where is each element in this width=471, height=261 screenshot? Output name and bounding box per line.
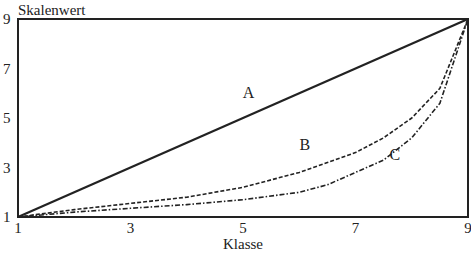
y-tick-label: 7 bbox=[3, 61, 11, 77]
y-tick-label: 1 bbox=[3, 209, 11, 225]
y-tick-label: 5 bbox=[3, 110, 11, 126]
y-axis-ticks: 13579 bbox=[3, 11, 11, 225]
curve-label-c: C bbox=[390, 146, 401, 163]
y-tick-label: 3 bbox=[3, 160, 11, 176]
curve-label-a: A bbox=[243, 84, 255, 101]
series-a-line bbox=[18, 19, 468, 217]
line-chart: Skalenwert Klasse 13579 13579 ABC bbox=[0, 0, 471, 261]
x-tick-label: 1 bbox=[14, 220, 22, 236]
y-axis-title: Skalenwert bbox=[18, 2, 86, 18]
x-tick-label: 9 bbox=[464, 220, 471, 236]
x-tick-label: 7 bbox=[352, 220, 360, 236]
x-tick-label: 3 bbox=[127, 220, 135, 236]
y-tick-label: 9 bbox=[3, 11, 11, 27]
x-axis-title: Klasse bbox=[223, 236, 263, 252]
curve-labels: ABC bbox=[243, 84, 400, 163]
x-tick-label: 5 bbox=[239, 220, 247, 236]
x-axis-ticks: 13579 bbox=[14, 220, 471, 236]
curve-label-b: B bbox=[300, 136, 311, 153]
series-group bbox=[18, 19, 468, 217]
